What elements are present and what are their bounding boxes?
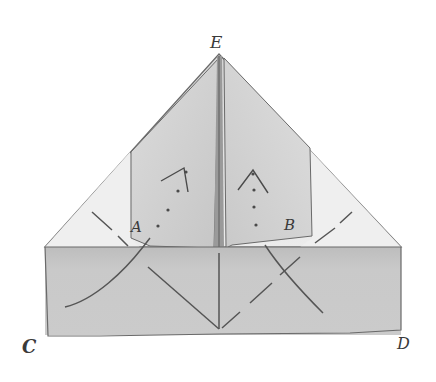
label-a: A [129, 218, 142, 236]
label-c: C [22, 336, 37, 357]
label-b: B [283, 216, 295, 234]
left-flap [131, 58, 219, 248]
origami-diagram: E A B C D [0, 0, 436, 382]
label-d: D [396, 334, 410, 353]
right-flap [224, 58, 312, 248]
label-e: E [209, 32, 223, 52]
